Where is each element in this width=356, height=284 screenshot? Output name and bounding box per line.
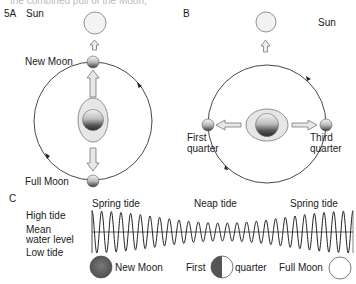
first-quarter-label-line2: quarter <box>187 143 219 154</box>
phase-new-moon-label: New Moon <box>115 262 163 273</box>
panel-c-tag: C <box>9 193 16 204</box>
sun-a-icon <box>84 12 106 34</box>
neap-tide-label: Neap tide <box>194 198 237 209</box>
phase-first-quarter-icon <box>211 256 233 278</box>
phase-quarter-label: quarter <box>235 262 267 273</box>
phase-new-moon-icon <box>90 256 112 278</box>
low-tide-label: Low tide <box>26 247 63 258</box>
sun-a-label: Sun <box>26 8 44 19</box>
sun-b-label: Sun <box>318 17 336 28</box>
arrow-left-b-icon <box>216 120 241 130</box>
third-quarter-label-line1: Third <box>310 132 333 143</box>
full-moon-a-icon <box>87 175 99 187</box>
third-quarter-moon-b-icon <box>320 119 332 131</box>
third-quarter-label-line2: quarter <box>310 143 342 154</box>
panel-b-tag: B <box>183 8 190 19</box>
earth-a-icon <box>83 110 104 131</box>
arrow-up-small-a-icon <box>90 40 99 50</box>
phase-full-moon-icon <box>329 257 351 279</box>
panel-b <box>202 12 332 183</box>
arrow-down-large-a-icon <box>87 148 99 171</box>
new-moon-a-icon <box>87 56 99 68</box>
high-tide-label: High tide <box>26 210 65 221</box>
arrow-right-b-icon <box>292 120 317 130</box>
first-quarter-label-line1: First <box>187 132 206 143</box>
full-moon-a-label: Full Moon <box>25 176 69 187</box>
new-moon-a-label: New Moon <box>25 56 73 67</box>
sun-b-icon <box>256 12 276 32</box>
panel-a <box>34 12 152 187</box>
phase-first-label: First <box>186 262 205 273</box>
earth-b-icon <box>256 114 279 137</box>
panel-a-tag: 5A <box>4 8 16 19</box>
mean-label-line2: water level <box>26 234 74 245</box>
spring-tide-right-label: Spring tide <box>290 198 338 209</box>
arrow-up-large-a-icon <box>87 70 99 97</box>
phase-full-moon-label: Full Moon <box>279 262 323 273</box>
arrow-up-small-b-icon <box>261 40 270 52</box>
first-quarter-moon-b-icon <box>202 119 214 131</box>
spring-tide-left-label: Spring tide <box>92 198 140 209</box>
